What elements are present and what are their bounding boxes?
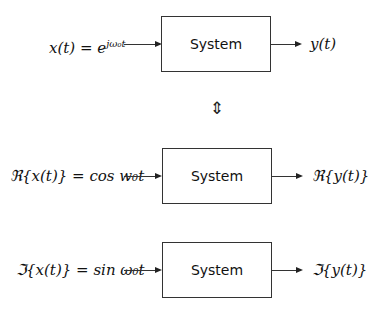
arrow-head-icon <box>296 267 303 273</box>
arrow-head-icon <box>296 173 303 179</box>
output-label-real: ℜ{y(t)} <box>312 167 369 185</box>
input-exponent: jω₀t <box>106 38 125 49</box>
system-label: System <box>190 36 242 52</box>
system-label: System <box>191 262 243 278</box>
arrow-head-icon <box>155 173 162 179</box>
arrow-head-icon <box>155 267 162 273</box>
system-label: System <box>191 168 243 184</box>
output-arrow-2 <box>272 176 296 177</box>
output-arrow-3 <box>272 270 296 271</box>
system-block-1: System <box>161 16 271 72</box>
input-arrow-1 <box>124 44 156 45</box>
output-arrow-1 <box>271 44 295 45</box>
arrow-head-icon <box>295 41 302 47</box>
input-base: x(t) = e <box>49 39 106 57</box>
system-block-3: System <box>162 242 272 298</box>
output-label-imag: ℑ{y(t)} <box>312 261 367 279</box>
input-arrow-2 <box>124 176 156 177</box>
input-label-complex: x(t) = ejω₀t <box>49 35 125 57</box>
system-block-2: System <box>162 148 272 204</box>
input-arrow-3 <box>124 270 156 271</box>
equivalence-icon: ⇕ <box>210 98 224 118</box>
output-label-complex: y(t) <box>310 35 336 53</box>
